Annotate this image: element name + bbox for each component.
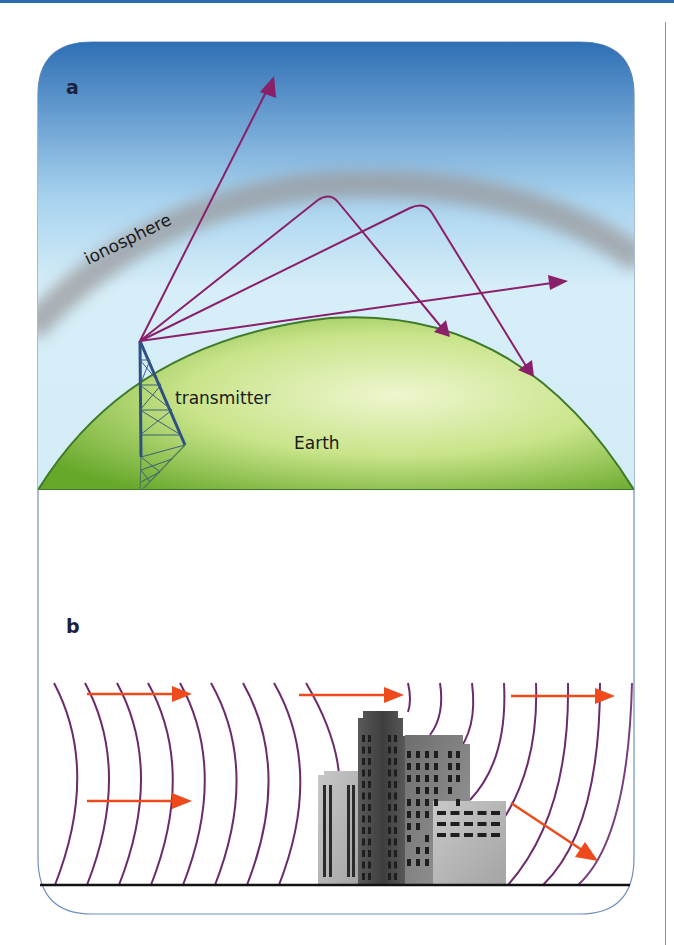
wavefronts-incident	[54, 683, 340, 885]
window	[394, 747, 397, 754]
window	[434, 751, 438, 758]
window	[407, 859, 411, 866]
window	[388, 770, 391, 777]
window	[368, 747, 371, 754]
window	[368, 781, 371, 788]
window	[368, 850, 371, 857]
window	[437, 833, 446, 837]
window	[456, 775, 460, 782]
building-tower	[358, 711, 408, 885]
window	[434, 775, 438, 782]
window	[416, 847, 420, 854]
arrow-diffracted	[511, 803, 585, 852]
window	[388, 793, 391, 800]
window	[368, 816, 371, 823]
window	[362, 850, 365, 857]
window	[425, 799, 429, 806]
window	[425, 847, 429, 854]
window	[407, 835, 411, 842]
window	[478, 811, 487, 815]
window	[448, 775, 452, 782]
window	[394, 873, 397, 880]
window	[388, 873, 391, 880]
window	[451, 833, 460, 837]
window	[362, 873, 365, 880]
window	[464, 822, 473, 826]
window	[434, 763, 438, 770]
window	[451, 811, 460, 815]
window	[407, 775, 411, 782]
buildings	[318, 711, 506, 885]
window	[425, 835, 429, 842]
window	[478, 822, 487, 826]
window	[362, 827, 365, 834]
window	[362, 862, 365, 869]
window	[425, 811, 429, 818]
panel-a-label: a	[66, 76, 79, 98]
window	[394, 816, 397, 823]
window	[388, 747, 391, 754]
arrow-bottom-left-head	[172, 793, 192, 809]
window	[451, 822, 460, 826]
window	[425, 763, 429, 770]
window	[362, 781, 365, 788]
window	[388, 816, 391, 823]
window	[368, 793, 371, 800]
window	[416, 799, 420, 806]
window	[437, 822, 446, 826]
window	[388, 735, 391, 742]
window	[388, 827, 391, 834]
window	[368, 839, 371, 846]
window	[478, 833, 487, 837]
window	[407, 763, 411, 770]
window	[394, 770, 397, 777]
window	[388, 781, 391, 788]
window	[394, 781, 397, 788]
window	[448, 751, 452, 758]
window	[394, 758, 397, 765]
arrow-diffracted-head	[575, 842, 598, 861]
window	[368, 827, 371, 834]
window	[362, 793, 365, 800]
window	[362, 735, 365, 742]
window	[407, 751, 411, 758]
window	[394, 804, 397, 811]
window	[407, 823, 411, 830]
window	[416, 859, 420, 866]
arrow-top-middle-head	[384, 687, 404, 703]
window	[368, 770, 371, 777]
window	[456, 763, 460, 770]
window	[407, 811, 411, 818]
window	[416, 763, 420, 770]
window	[407, 799, 411, 806]
window	[416, 775, 420, 782]
window	[362, 747, 365, 754]
window	[368, 873, 371, 880]
window	[425, 787, 429, 794]
transmitter-label: transmitter	[175, 388, 271, 408]
window	[448, 787, 452, 794]
window	[388, 839, 391, 846]
earth-label: Earth	[294, 433, 340, 453]
window	[368, 735, 371, 742]
arrow-top-right-head	[595, 688, 615, 704]
window	[388, 850, 391, 857]
window	[394, 839, 397, 846]
window	[362, 816, 365, 823]
window	[425, 775, 429, 782]
window	[362, 770, 365, 777]
window	[416, 811, 420, 818]
window	[491, 811, 500, 815]
window	[416, 823, 420, 830]
window	[394, 827, 397, 834]
window	[388, 758, 391, 765]
window	[456, 799, 460, 806]
window	[394, 862, 397, 869]
window	[456, 751, 460, 758]
figure: a	[0, 0, 674, 945]
window	[425, 859, 429, 866]
window	[448, 763, 452, 770]
window	[368, 804, 371, 811]
window	[362, 804, 365, 811]
window	[491, 822, 500, 826]
